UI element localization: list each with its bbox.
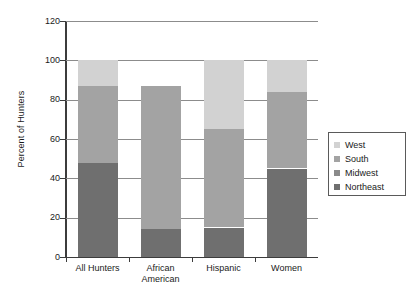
bar-segment-west[interactable] bbox=[78, 60, 118, 86]
bar-segment-south[interactable] bbox=[267, 92, 307, 169]
y-tick-mark bbox=[60, 178, 66, 179]
bar-segment-northeast[interactable] bbox=[204, 228, 244, 258]
legend-label: Midwest bbox=[345, 169, 378, 178]
y-tick-label: 40 bbox=[32, 174, 60, 183]
legend-label: West bbox=[345, 141, 365, 150]
bar-all-hunters[interactable] bbox=[78, 21, 118, 257]
plot-area bbox=[66, 21, 318, 257]
x-tick-mark bbox=[66, 257, 67, 262]
legend-item-northeast[interactable]: Northeast bbox=[334, 180, 405, 194]
x-tick-mark bbox=[255, 257, 256, 262]
y-tick-label: 0 bbox=[32, 253, 60, 262]
bar-segment-northeast[interactable] bbox=[267, 169, 307, 258]
bar-segment-south[interactable] bbox=[78, 86, 118, 163]
y-axis-title: Percent of Hunters bbox=[16, 64, 26, 194]
chart-legend: WestSouthMidwestNortheast bbox=[328, 132, 406, 196]
x-tick-mark bbox=[129, 257, 130, 262]
bar-segment-west[interactable] bbox=[204, 60, 244, 129]
bar-segment-south[interactable] bbox=[204, 129, 244, 227]
y-tick-label: 20 bbox=[32, 213, 60, 222]
y-tick-mark bbox=[60, 100, 66, 101]
y-tick-mark bbox=[60, 218, 66, 219]
legend-swatch-icon bbox=[334, 142, 340, 148]
bar-women[interactable] bbox=[267, 21, 307, 257]
bar-hispanic[interactable] bbox=[204, 21, 244, 257]
y-tick-mark bbox=[60, 139, 66, 140]
bar-segment-south[interactable] bbox=[141, 86, 181, 230]
bar-segment-northeast[interactable] bbox=[78, 163, 118, 257]
y-tick-label: 60 bbox=[32, 135, 60, 144]
y-tick-label: 80 bbox=[32, 95, 60, 104]
y-tick-label: 120 bbox=[32, 17, 60, 26]
bar-segment-west[interactable] bbox=[267, 60, 307, 91]
legend-swatch-icon bbox=[334, 170, 340, 176]
y-tick-mark bbox=[60, 60, 66, 61]
bar-segment-northeast[interactable] bbox=[141, 229, 181, 257]
y-tick-mark bbox=[60, 21, 66, 22]
legend-swatch-icon bbox=[334, 184, 340, 190]
x-axis-label: Women bbox=[244, 263, 330, 274]
y-tick-label: 100 bbox=[32, 56, 60, 65]
x-axis-label-line: American bbox=[118, 274, 204, 285]
x-axis-label-line: Women bbox=[244, 263, 330, 274]
x-tick-mark bbox=[192, 257, 193, 262]
legend-item-south[interactable]: South bbox=[334, 152, 405, 166]
legend-item-midwest[interactable]: Midwest bbox=[334, 166, 405, 180]
legend-label: South bbox=[345, 155, 369, 164]
legend-label: Northeast bbox=[345, 183, 384, 192]
bar-african-american[interactable] bbox=[141, 21, 181, 257]
legend-item-west[interactable]: West bbox=[334, 138, 405, 152]
y-axis-ticks: 020406080100120 bbox=[26, 0, 60, 298]
legend-swatch-icon bbox=[334, 156, 340, 162]
stacked-bar-chart: Percent of Hunters 020406080100120 WestS… bbox=[0, 0, 418, 298]
